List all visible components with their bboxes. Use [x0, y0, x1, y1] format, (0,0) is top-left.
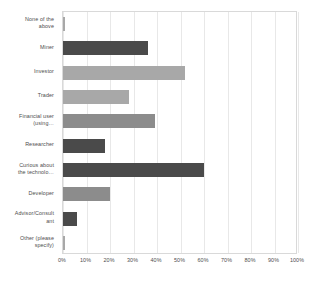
bar: [63, 66, 185, 80]
x-axis-tick-label: 20%: [103, 257, 114, 263]
y-axis-label-line: Developer: [29, 190, 54, 197]
y-axis-label: Miner: [0, 35, 58, 59]
y-axis-label: Advisor/Consultant: [0, 205, 58, 229]
y-axis-label-line: (using…: [33, 120, 54, 127]
y-axis-label-line: ant: [46, 218, 54, 225]
bar-row: [63, 85, 298, 109]
y-axis-label: None of theabove: [0, 11, 58, 35]
y-axis-label-line: Curious about: [19, 162, 54, 169]
y-axis-label: Investor: [0, 60, 58, 84]
bar-row: [63, 134, 298, 158]
y-axis-label: Trader: [0, 84, 58, 108]
bar: [63, 236, 65, 250]
y-axis-label-line: Miner: [40, 44, 54, 51]
bar-row: [63, 158, 298, 182]
y-axis-label: Financial user(using…: [0, 108, 58, 132]
bar-chart: None of theaboveMinerInvestorTraderFinan…: [0, 0, 318, 285]
y-axis-label-line: Advisor/Consult: [15, 210, 54, 217]
gridline: [298, 12, 299, 253]
bar-row: [63, 12, 298, 36]
x-axis-tick-label: 100%: [290, 257, 304, 263]
y-axis-label: Researcher: [0, 133, 58, 157]
y-axis-label: Curious aboutthe technolo…: [0, 157, 58, 181]
y-axis-label-line: Researcher: [25, 141, 54, 148]
x-axis-tick-label: 80%: [244, 257, 255, 263]
bar-row: [63, 182, 298, 206]
y-axis-label: Other (pleasespecify): [0, 230, 58, 254]
y-axis-label-line: Trader: [38, 92, 54, 99]
bar: [63, 187, 110, 201]
bar-row: [63, 109, 298, 133]
y-axis-label: Developer: [0, 181, 58, 205]
y-axis-label-line: None of the: [25, 16, 54, 23]
bar: [63, 212, 77, 226]
x-axis-tick-label: 10%: [80, 257, 91, 263]
y-axis-label-line: Other (please: [20, 235, 54, 242]
y-axis-label-line: Investor: [34, 68, 54, 75]
bar: [63, 139, 105, 153]
x-axis-tick-label: 70%: [221, 257, 232, 263]
y-axis-label-line: the technolo…: [18, 169, 54, 176]
y-axis-labels: None of theaboveMinerInvestorTraderFinan…: [0, 11, 58, 254]
bar: [63, 17, 65, 31]
bar-series: [63, 12, 296, 253]
y-axis-label-line: specify): [35, 242, 54, 249]
y-axis-label-line: above: [39, 23, 54, 30]
bar: [63, 90, 129, 104]
x-axis-tick-labels: 0%10%20%30%40%50%60%70%80%90%100%: [62, 257, 297, 271]
y-axis-label-line: Financial user: [19, 113, 54, 120]
bar: [63, 114, 155, 128]
bar-row: [63, 206, 298, 230]
x-axis-tick-label: 50%: [174, 257, 185, 263]
bar-row: [63, 61, 298, 85]
plot-area: [62, 11, 297, 254]
bar-row: [63, 231, 298, 255]
bar: [63, 163, 204, 177]
bar: [63, 41, 148, 55]
x-axis-tick-label: 30%: [127, 257, 138, 263]
x-axis-tick-label: 60%: [197, 257, 208, 263]
x-axis-tick-label: 40%: [150, 257, 161, 263]
x-axis-tick-label: 0%: [58, 257, 66, 263]
x-axis-tick-label: 90%: [268, 257, 279, 263]
bar-row: [63, 36, 298, 60]
